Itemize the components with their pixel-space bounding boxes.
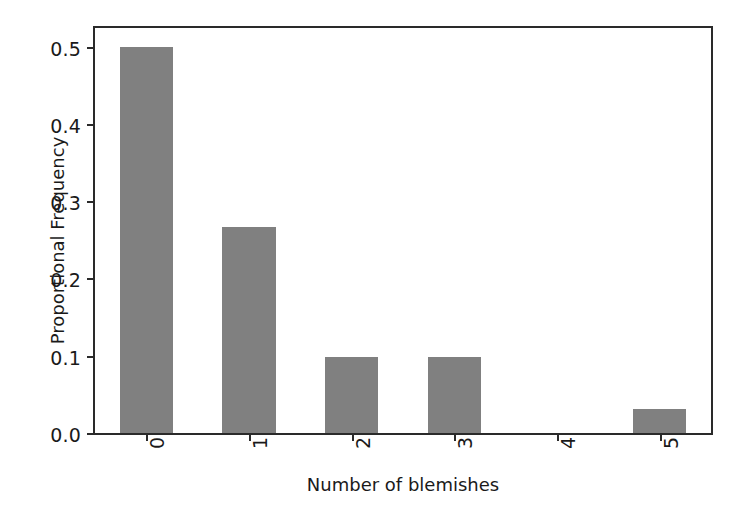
- x-tick-label-1: 1: [251, 437, 270, 449]
- y-tick-4: 0.4: [87, 124, 95, 126]
- plot-area: 0.0 0.1 0.2 0.3 0.4 0.5 0 1 2 3 4: [93, 26, 713, 435]
- y-tick-3: 0.3: [87, 201, 95, 203]
- x-tick-0: 0: [146, 433, 148, 441]
- x-tick-1: 1: [249, 433, 251, 441]
- bar-3[interactable]: [428, 357, 481, 433]
- y-tick-0: 0.0: [87, 433, 95, 435]
- bar-1[interactable]: [222, 227, 275, 433]
- y-tick-1: 0.1: [87, 356, 95, 358]
- x-tick-label-3: 3: [456, 437, 475, 449]
- bar-0[interactable]: [120, 47, 173, 433]
- y-tick-5: 0.5: [87, 47, 95, 49]
- y-tick-label-5: 0.5: [50, 39, 81, 58]
- bar-chart-figure: 0.0 0.1 0.2 0.3 0.4 0.5 0 1 2 3 4: [0, 0, 743, 510]
- x-tick-5: 5: [660, 433, 662, 441]
- x-tick-2: 2: [352, 433, 354, 441]
- x-tick-label-5: 5: [662, 437, 681, 449]
- y-tick-label-0: 0.0: [50, 426, 81, 445]
- x-axis-label: Number of blemishes: [93, 474, 713, 495]
- bar-2[interactable]: [325, 357, 378, 433]
- x-tick-label-4: 4: [559, 437, 578, 449]
- x-tick-4: 4: [557, 433, 559, 441]
- y-tick-2: 0.2: [87, 278, 95, 280]
- x-tick-3: 3: [454, 433, 456, 441]
- x-tick-label-2: 2: [354, 437, 373, 449]
- x-tick-label-0: 0: [148, 437, 167, 449]
- y-axis-label: Proportional Frequency: [47, 61, 68, 421]
- bar-5[interactable]: [633, 409, 686, 433]
